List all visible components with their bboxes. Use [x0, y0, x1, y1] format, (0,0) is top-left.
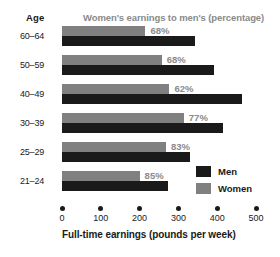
tick-dot-icon: [98, 206, 103, 211]
bar-women[interactable]: [62, 26, 145, 36]
chart-legend: Men Women: [196, 163, 252, 197]
tick-dot-icon: [215, 206, 220, 211]
chart-row: 25–2983%: [0, 142, 280, 164]
percentage-label: 85%: [145, 170, 164, 181]
chart-row: 30–3977%: [0, 113, 280, 135]
bar-men[interactable]: [62, 152, 190, 162]
chart-container: Age Women's earnings to men's (percentag…: [0, 0, 280, 257]
age-group-label: 40–49: [8, 89, 56, 99]
header-age-label: Age: [26, 12, 45, 23]
x-axis-tick-label: 200: [132, 213, 147, 223]
bar-women[interactable]: [62, 171, 140, 181]
bar-women[interactable]: [62, 142, 166, 152]
percentage-label: 83%: [171, 141, 190, 152]
percentage-label: 62%: [174, 83, 193, 94]
tick-dot-icon: [60, 206, 65, 211]
percentage-label: 68%: [167, 54, 186, 65]
x-axis: 0100200300400500 Full-time earnings (pou…: [0, 206, 280, 256]
chart-row: 50–5968%: [0, 55, 280, 77]
x-axis-tick-label: 0: [59, 213, 64, 223]
legend-swatch-men: [196, 166, 211, 177]
tick-dot-icon: [176, 206, 181, 211]
age-group-label: 60–64: [8, 31, 56, 41]
bar-women[interactable]: [62, 55, 162, 65]
legend-swatch-women: [196, 183, 211, 194]
header-subtitle: Women's earnings to men's (percentage): [83, 12, 264, 23]
legend-item-women: Women: [196, 180, 252, 197]
bar-women[interactable]: [62, 113, 184, 123]
percentage-label: 68%: [150, 25, 169, 36]
x-axis-tick-label: 400: [210, 213, 225, 223]
x-axis-tick-label: 300: [171, 213, 186, 223]
tick-dot-icon: [137, 206, 142, 211]
x-axis-tick-label: 100: [93, 213, 108, 223]
legend-label-women: Women: [218, 183, 252, 194]
bar-men[interactable]: [62, 181, 168, 191]
age-group-label: 30–39: [8, 118, 56, 128]
legend-item-men: Men: [196, 163, 252, 180]
bar-men[interactable]: [62, 123, 223, 133]
age-group-label: 50–59: [8, 60, 56, 70]
age-group-label: 21–24: [8, 176, 56, 186]
bar-men[interactable]: [62, 65, 214, 75]
bar-men[interactable]: [62, 36, 195, 46]
x-axis-tick-label: 500: [248, 213, 263, 223]
age-group-label: 25–29: [8, 147, 56, 157]
bar-men[interactable]: [62, 94, 242, 104]
chart-row: 60–6468%: [0, 26, 280, 48]
x-axis-title: Full-time earnings (pounds per week): [62, 229, 236, 240]
bar-women[interactable]: [62, 84, 169, 94]
chart-row: 40–4962%: [0, 84, 280, 106]
tick-dot-icon: [254, 206, 259, 211]
legend-label-men: Men: [218, 166, 237, 177]
percentage-label: 77%: [189, 112, 208, 123]
